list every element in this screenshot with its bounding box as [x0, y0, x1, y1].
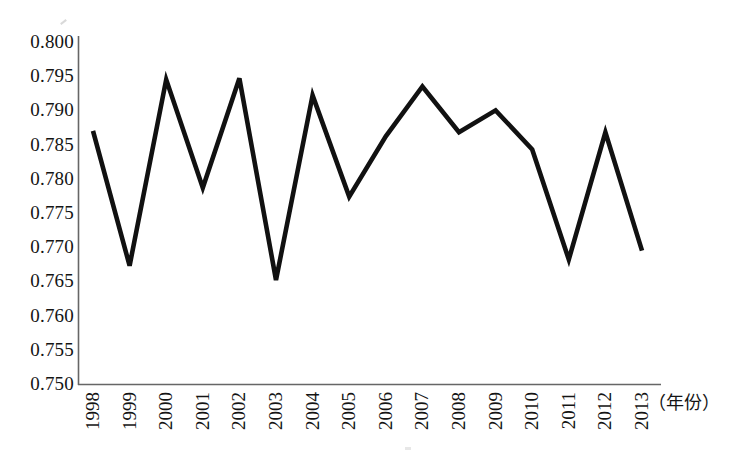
x-axis-tick-label: 2001: [192, 392, 214, 462]
x-axis-tick-label: 2009: [485, 392, 507, 462]
x-axis-tick-label: 2012: [594, 392, 616, 462]
x-axis-tick-label: 2005: [338, 392, 360, 462]
x-axis-tick-label: 2007: [411, 392, 433, 462]
x-axis-tick-label: 2010: [521, 392, 543, 462]
x-axis-tick-label: 2004: [302, 392, 324, 462]
x-axis-tick-label: 1999: [119, 392, 141, 462]
x-axis-tick-label: 2006: [375, 392, 397, 462]
x-axis-tick-labels: 1998199920002001200220032004200520062007…: [0, 0, 744, 464]
x-axis-tick-label: 2003: [265, 392, 287, 462]
x-axis-tick-label: 2008: [448, 392, 470, 462]
x-axis-tick-label: 2000: [155, 392, 177, 462]
chart-figure: 0.8000.7950.7900.7850.7800.7750.7700.765…: [0, 0, 744, 464]
x-axis-tick-label: 2002: [228, 392, 250, 462]
x-axis-tick-label: 1998: [82, 392, 104, 462]
x-axis-title: （年份）: [648, 392, 720, 414]
scan-speck: [405, 447, 411, 450]
x-axis-tick-label: 2011: [558, 392, 580, 462]
